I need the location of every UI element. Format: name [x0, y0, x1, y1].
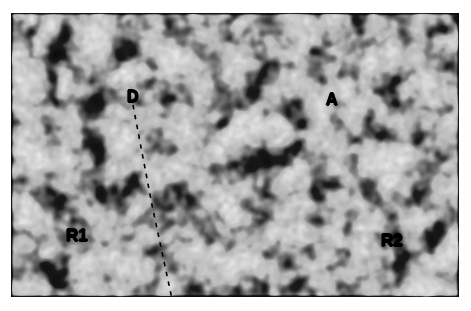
annotation-label-r1: R1 — [66, 227, 88, 244]
annotation-label-r2: R2 — [381, 232, 403, 249]
micrograph-image — [11, 13, 459, 297]
annotation-label-a: A — [326, 92, 338, 108]
stm-figure: D A R1 R2 — [0, 0, 471, 311]
micrograph-canvas — [11, 13, 459, 297]
micrograph-fine-structure — [11, 13, 459, 297]
annotation-label-d: D — [127, 89, 139, 105]
